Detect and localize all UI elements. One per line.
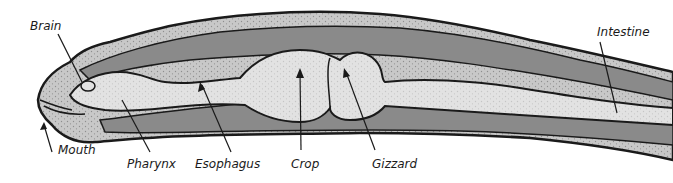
brain-organ [81,81,95,91]
label-intestine: Intestine [597,25,650,39]
label-gizzard: Gizzard [372,157,417,171]
label-crop: Crop [291,157,319,171]
label-pharynx: Pharynx [127,157,176,171]
label-brain: Brain [30,19,61,33]
mouth-arrowhead [40,122,47,130]
label-esophagus: Esophagus [195,157,260,171]
label-mouth: Mouth [58,143,96,157]
earthworm-diagram [0,0,673,183]
